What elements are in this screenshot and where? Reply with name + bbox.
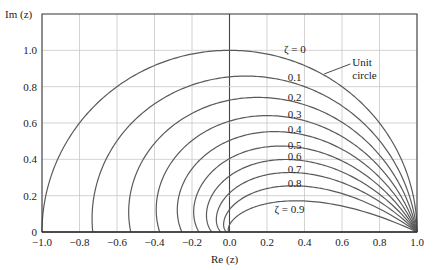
x-tick-label: 0.2: [260, 236, 274, 248]
unit-circle-annotation: Unit: [352, 56, 372, 68]
curve-label: 0.3: [288, 108, 302, 120]
y-tick-label: 0.2: [23, 190, 37, 202]
unit-circle-leader-line: [324, 64, 350, 74]
curve-label: 0.2: [288, 91, 302, 103]
curve-label: 0.4: [288, 123, 302, 135]
y-axis-label: Im (z): [5, 8, 33, 21]
unit-circle-annotation: circle: [352, 69, 377, 81]
x-tick-label: 0.6: [335, 236, 349, 248]
y-tick-label: 0: [32, 226, 38, 238]
curve-label: 0.8: [288, 177, 302, 189]
x-axis-label: Re (z): [211, 253, 239, 266]
curve-label: 0.1: [288, 71, 302, 83]
x-tick-label: −0.4: [145, 236, 165, 248]
chart-canvas: −1.0−0.8−0.6−0.4−0.20.00.20.40.60.81.000…: [0, 0, 439, 270]
curve-label: ζ = 0.9: [275, 203, 306, 216]
damping-curve-0-1: [92, 76, 417, 232]
x-tick-label: 1.0: [410, 236, 424, 248]
x-tick-label: 0.0: [223, 236, 237, 248]
y-tick-label: 0.8: [23, 81, 37, 93]
curve-label: 0.6: [288, 150, 302, 162]
damping-curve-0-2: [129, 97, 417, 232]
z-plane-damping-chart: −1.0−0.8−0.6−0.4−0.20.00.20.40.60.81.000…: [0, 0, 439, 270]
damping-curve-0-8: [224, 186, 417, 232]
y-tick-label: 0.4: [23, 153, 37, 165]
x-tick-label: 0.8: [373, 236, 387, 248]
curve-labels: ζ = 00.10.20.30.40.50.60.70.8ζ = 0.9Unit…: [275, 43, 377, 217]
gridlines: [42, 14, 417, 232]
curve-label: ζ = 0: [284, 43, 306, 56]
y-tick-label: 0.6: [23, 117, 37, 129]
x-tick-label: 0.4: [298, 236, 312, 248]
x-tick-label: −0.6: [107, 236, 127, 248]
x-tick-label: −0.2: [182, 236, 202, 248]
x-tick-label: −0.8: [70, 236, 90, 248]
curve-label: 0.7: [288, 163, 302, 175]
damping-curve-0-9: [228, 201, 417, 232]
y-tick-label: 1.0: [23, 44, 37, 56]
